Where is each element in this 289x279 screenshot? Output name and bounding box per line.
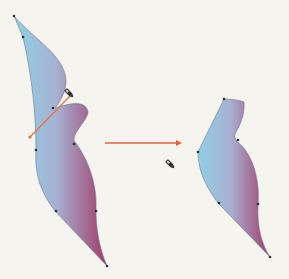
- knife-cursor-icon: [165, 159, 176, 170]
- before-shape: [13, 15, 109, 268]
- diagram-canvas: Knife tool cut: shape before and after: [0, 0, 289, 279]
- after-shape: [197, 98, 272, 259]
- diagram-svg: [0, 0, 289, 279]
- transition-arrow: [105, 140, 182, 146]
